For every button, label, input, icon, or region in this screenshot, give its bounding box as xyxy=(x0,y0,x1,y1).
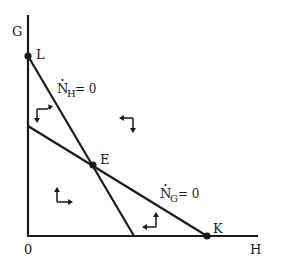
ng-suffix: = 0 xyxy=(178,187,200,201)
x-axis-label: H xyxy=(250,242,261,257)
arrow-lower-left-up-right-icon xyxy=(54,187,73,205)
point-e-label: E xyxy=(100,152,110,167)
point-l-dot xyxy=(24,52,31,59)
y-axis-label: G xyxy=(12,24,22,39)
arrow-lower-right-left-up-icon xyxy=(142,212,159,230)
nh-suffix: = 0 xyxy=(75,82,97,96)
ng-isocline-label: N G = 0 xyxy=(160,184,200,204)
origin-label: 0 xyxy=(24,242,32,257)
arrow-upper-left-down-right-icon xyxy=(34,105,53,124)
point-e-dot xyxy=(89,161,96,168)
point-l-label: L xyxy=(36,47,45,62)
axes xyxy=(27,15,258,236)
point-k-label: K xyxy=(213,221,223,236)
phase-diagram: G H 0 L E K N H = 0 N G = 0 xyxy=(0,0,288,269)
point-k-dot xyxy=(203,232,210,239)
ng-subscript: G xyxy=(170,193,178,204)
ng-isocline xyxy=(28,126,207,236)
nh-isocline-label: N H = 0 xyxy=(57,79,97,99)
arrow-upper-right-left-down-icon xyxy=(119,115,136,133)
